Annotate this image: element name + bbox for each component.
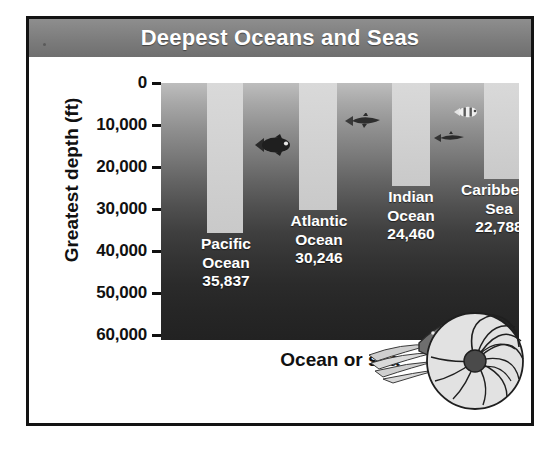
y-tick-mark	[152, 166, 161, 169]
y-tick-label: 60,000	[96, 325, 147, 345]
y-axis-title: Greatest depth (ft)	[61, 75, 83, 285]
bar-label-atlantic-ocean: Atlantic Ocean 30,246	[279, 212, 359, 268]
bar-label-name-line1: Indian	[372, 188, 450, 207]
y-tick-label: 50,000	[96, 283, 147, 303]
bar-label-pacific-ocean: Pacific Ocean 35,837	[187, 235, 265, 291]
chart-title: Deepest Oceans and Seas	[141, 25, 420, 51]
bar-pacific-ocean	[207, 83, 243, 233]
bar-label-name-line2: Ocean	[279, 231, 359, 250]
y-tick-mark	[152, 82, 161, 85]
bar-label-value: 22,788	[450, 218, 519, 237]
fish-striped-clownfish-icon	[453, 105, 481, 119]
y-tick-mark	[152, 292, 161, 295]
y-tick-0: 0	[138, 75, 161, 91]
y-tick-mark	[152, 124, 161, 127]
y-axis: 0 10,000 20,000 30,000 40,000 50,000 60,…	[29, 83, 161, 340]
y-tick-30000: 30,000	[96, 201, 161, 217]
y-tick-mark	[152, 208, 161, 211]
figure-frame: Deepest Oceans and Seas 0 10,000 20,000 …	[26, 16, 534, 426]
title-decor-dot	[43, 43, 46, 46]
bar-indian-ocean	[392, 83, 430, 186]
bar-caribbean-sea	[484, 83, 519, 179]
bar-label-name-line1: Atlantic	[279, 212, 359, 231]
y-tick-label: 0	[138, 73, 147, 93]
y-tick-10000: 10,000	[96, 117, 161, 133]
y-tick-50000: 50,000	[96, 285, 161, 301]
bar-label-name-line1: Caribbean	[450, 181, 519, 200]
y-tick-label: 40,000	[96, 241, 147, 261]
chart-title-band: Deepest Oceans and Seas	[29, 19, 531, 57]
y-tick-20000: 20,000	[96, 159, 161, 175]
y-tick-mark	[152, 334, 161, 337]
y-tick-label: 30,000	[96, 199, 147, 219]
y-tick-60000: 60,000	[96, 327, 161, 343]
plot-area: Pacific Ocean 35,837 Atlantic Ocean 30,2…	[161, 83, 519, 340]
chart-figure: Deepest Oceans and Seas 0 10,000 20,000 …	[0, 0, 560, 456]
bar-label-value: 30,246	[279, 249, 359, 268]
bar-label-name-line1: Pacific	[187, 235, 265, 254]
y-tick-40000: 40,000	[96, 243, 161, 259]
bar-label-value: 24,460	[372, 225, 450, 244]
fish-small-dark-icon	[433, 131, 467, 145]
bar-label-name-line2: Sea	[450, 200, 519, 219]
bar-label-name-line2: Ocean	[372, 207, 450, 226]
y-tick-mark	[152, 250, 161, 253]
bar-label-caribbean-sea: Caribbean Sea 22,788	[450, 181, 519, 237]
nautilus-shell-icon	[367, 303, 531, 413]
fish-dark-large-icon	[251, 133, 293, 157]
fish-shark-icon	[343, 113, 383, 129]
bar-label-value: 35,837	[187, 272, 265, 291]
y-tick-label: 20,000	[96, 157, 147, 177]
bar-label-name-line2: Ocean	[187, 254, 265, 273]
bar-atlantic-ocean	[299, 83, 337, 210]
bar-label-indian-ocean: Indian Ocean 24,460	[372, 188, 450, 244]
y-tick-label: 10,000	[96, 115, 147, 135]
